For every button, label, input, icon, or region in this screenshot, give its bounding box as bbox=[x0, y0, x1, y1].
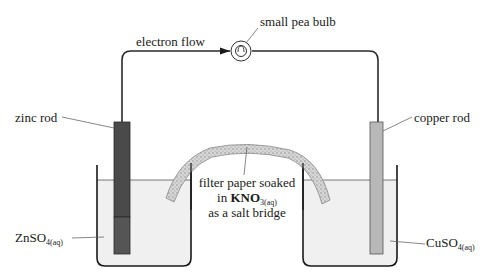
copper-rod bbox=[370, 122, 383, 254]
zinc-sulfate-label: ZnSO4(aq) bbox=[15, 231, 63, 250]
zinc-rod-leader-line bbox=[62, 117, 114, 128]
salt-bridge-formula: KNO bbox=[230, 190, 260, 205]
bulb-label: small pea bulb bbox=[260, 15, 336, 29]
zinc-sulfate-subscript: 4(aq) bbox=[46, 238, 63, 247]
zinc-rod bbox=[114, 122, 130, 217]
salt-bridge-label-line1: filter paper soaked bbox=[193, 176, 301, 190]
copper-sulfate-label: CuSO4(aq) bbox=[426, 236, 475, 255]
zinc-rod-submerged bbox=[114, 217, 130, 254]
electron-flow-label: electron flow bbox=[136, 35, 205, 49]
bulb-leader-line bbox=[246, 28, 258, 43]
copper-rod-leader-line bbox=[383, 117, 412, 131]
salt-bridge-label-line3: as a salt bridge bbox=[193, 206, 301, 220]
copper-sulfate-formula: CuSO bbox=[426, 235, 458, 250]
salt-bridge-label-prefix: in bbox=[217, 190, 230, 205]
wire-right bbox=[252, 51, 378, 122]
zinc-rod-label: zinc rod bbox=[15, 111, 57, 125]
copper-rod-label: copper rod bbox=[414, 111, 470, 125]
wire bbox=[122, 51, 230, 123]
bulb-icon bbox=[231, 41, 251, 61]
zinc-sulfate-formula: ZnSO bbox=[15, 230, 46, 245]
copper-sulfate-subscript: 4(aq) bbox=[458, 243, 475, 252]
diagram-drawing bbox=[0, 0, 488, 278]
galvanic-cell-diagram: electron flow small pea bulb zinc rod co… bbox=[0, 0, 488, 278]
electron-flow-arrow bbox=[220, 48, 230, 55]
